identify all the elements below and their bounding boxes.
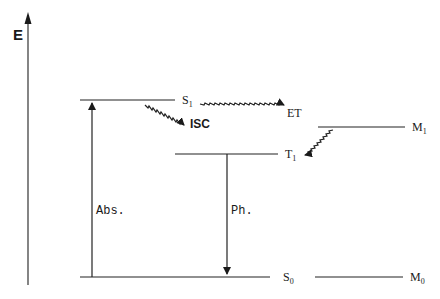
isc-label: ISC bbox=[190, 117, 210, 131]
et-label: ET bbox=[287, 106, 302, 120]
label-s1: S1 bbox=[182, 93, 193, 109]
et-wavy-arrow bbox=[200, 103, 284, 105]
label-m0: M0 bbox=[410, 270, 425, 286]
energy-diagram: E S1 T1 S0 M1 M0 Abs. Ph. ISC ET bbox=[0, 0, 440, 299]
isc-wavy-arrow bbox=[145, 105, 184, 125]
energy-axis-label: E bbox=[13, 26, 23, 43]
axis-arrowhead-icon bbox=[25, 12, 32, 24]
back-transfer-wavy-arrow bbox=[305, 130, 333, 155]
label-m1: M1 bbox=[412, 120, 427, 136]
absorption-label: Abs. bbox=[96, 204, 125, 218]
label-t1: T1 bbox=[285, 147, 296, 163]
phosphorescence-label: Ph. bbox=[231, 204, 253, 218]
label-s0: S0 bbox=[283, 270, 294, 286]
energy-axis bbox=[25, 12, 32, 285]
